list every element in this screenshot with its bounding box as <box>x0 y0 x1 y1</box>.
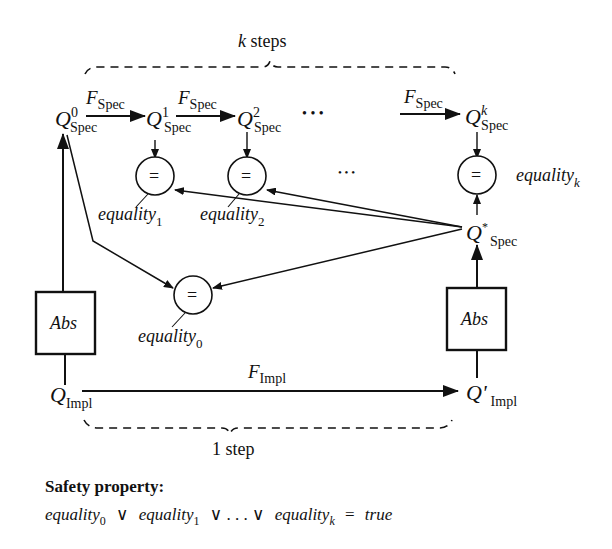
eqk-symbol: = <box>471 166 481 184</box>
one-step-brace <box>84 420 452 434</box>
ellipsis-top: • • • <box>302 107 324 121</box>
f-spec-label-2: FSpec <box>178 88 217 107</box>
safety-formula: equality0 ∨ equality1 ∨ . . . ∨ equality… <box>45 506 392 523</box>
q-prime-impl-state: Q'Impl <box>466 382 517 404</box>
k-steps-brace <box>85 61 455 74</box>
equality-2-label: equality2 <box>200 205 264 223</box>
qstar-spec-state: Q*Spec <box>466 222 517 244</box>
equality-0-label: equality0 <box>138 327 202 345</box>
abs-label-right: Abs <box>461 310 488 328</box>
equality-k-label: equalityk <box>516 166 580 184</box>
abs-label-left: Abs <box>50 314 77 332</box>
diagram-canvas <box>0 0 612 549</box>
one-step-label: 1 step <box>212 440 255 458</box>
f-impl-label: FImpl <box>248 362 286 381</box>
q2-spec-state: Q2Spec <box>237 108 281 130</box>
q-impl-state: QImpl <box>50 384 92 406</box>
qk-spec-state: QkSpec <box>465 106 508 128</box>
safety-property-title: Safety property: <box>45 478 164 495</box>
eq0-symbol: = <box>187 286 197 304</box>
equality-1-label: equality1 <box>98 205 162 223</box>
f-spec-label-1: FSpec <box>86 88 125 107</box>
eq1-symbol: = <box>149 167 159 185</box>
arrow-qstar-to-eq2 <box>267 190 462 227</box>
q1-spec-state: Q1Spec <box>146 108 191 130</box>
leader-eq0 <box>172 313 185 327</box>
f-spec-label-k: FSpec <box>404 87 443 106</box>
eq2-symbol: = <box>241 167 251 185</box>
q0-spec-state: Q0Spec <box>55 108 97 130</box>
arrow-qstar-to-eq0 <box>213 229 462 288</box>
k-steps-label: k steps <box>238 32 287 50</box>
ellipsis-mid: • • • <box>338 167 355 178</box>
